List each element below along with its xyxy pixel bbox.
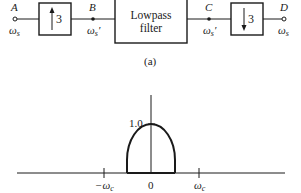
node-b-label: B [89, 2, 96, 13]
upsampler-block [39, 3, 71, 35]
node-d-label: D [280, 2, 288, 13]
node-a-label: A [11, 2, 18, 13]
tick-label-neg-wc: −ωc [95, 180, 114, 193]
up-arrow-icon [50, 7, 55, 13]
node-c-label: C [205, 2, 212, 13]
upsampler-factor: 3 [56, 13, 62, 25]
node-b-dot-icon [91, 17, 95, 21]
lowpass-filter-label: Lowpass filter [115, 9, 187, 35]
tick-label-zero: 0 [148, 180, 154, 191]
lowpass-line2: filter [115, 22, 187, 35]
lowpass-line1: Lowpass [115, 9, 187, 22]
downsampler-factor: 3 [248, 13, 254, 25]
node-c-freq: ωs′ [203, 25, 216, 38]
node-d-open-circle-icon [282, 17, 286, 21]
node-a-freq: ωs [9, 25, 20, 38]
tick-label-pos-wc: ωc [194, 180, 205, 193]
node-a-open-circle-icon [13, 17, 17, 21]
figure-caption: (a) [144, 56, 156, 67]
downsampler-block [231, 3, 263, 35]
node-c-dot-icon [207, 17, 211, 21]
peak-value-label: 1.0 [129, 118, 143, 129]
node-d-freq: ωs [278, 25, 289, 38]
down-arrow-icon [242, 25, 247, 31]
node-b-freq: ωs′ [87, 25, 100, 38]
